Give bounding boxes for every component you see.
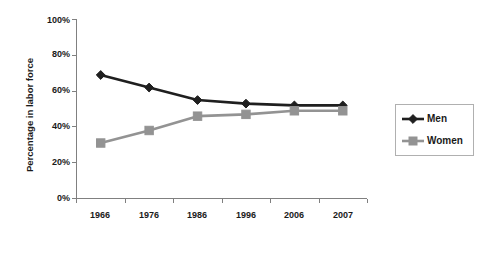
line-chart: Percentage in labor force 100% 80% 60% 4…	[0, 0, 491, 262]
chart-figure: Percentage in labor force 100% 80% 60% 4…	[0, 0, 491, 262]
legend-label-men[interactable]: Men	[427, 113, 447, 124]
y-tick-label-20: 20%	[52, 157, 70, 167]
y-axis-title: Percentage in labor force	[24, 58, 35, 172]
x-tick-label-1996: 1996	[236, 210, 256, 220]
data-point-women-2007[interactable]	[339, 107, 347, 115]
series-women	[97, 107, 347, 148]
x-tick-label-1986: 1986	[187, 210, 207, 220]
y-tick-label-80: 80%	[52, 49, 70, 59]
legend-label-women[interactable]: Women	[427, 135, 463, 146]
legend-border	[396, 105, 474, 156]
x-tick-label-1966: 1966	[90, 210, 110, 220]
legend-marker-women-square-icon	[409, 137, 417, 145]
series-men	[96, 71, 347, 110]
y-tick-label-100: 100%	[47, 15, 70, 25]
data-point-men-1996[interactable]	[242, 99, 251, 108]
data-point-women-1976[interactable]	[145, 126, 153, 134]
data-point-women-2006[interactable]	[290, 107, 298, 115]
series-line-women	[101, 111, 343, 143]
data-point-men-1976[interactable]	[145, 83, 154, 92]
data-point-women-1996[interactable]	[242, 110, 250, 118]
y-tick-label-60: 60%	[52, 85, 70, 95]
x-tick-label-2006: 2006	[284, 210, 304, 220]
data-point-women-1986[interactable]	[193, 112, 201, 120]
data-point-women-1966[interactable]	[97, 139, 105, 147]
data-point-men-1966[interactable]	[96, 71, 105, 80]
x-tick-label-2007: 2007	[333, 210, 353, 220]
y-tick-label-40: 40%	[52, 121, 70, 131]
y-tick-label-0: 0%	[57, 193, 70, 203]
data-point-men-1986[interactable]	[193, 96, 202, 105]
x-tick-label-1976: 1976	[139, 210, 159, 220]
plot-data-layer	[96, 71, 347, 148]
series-line-men	[101, 75, 343, 105]
chart-legend: Men Women	[396, 105, 474, 156]
